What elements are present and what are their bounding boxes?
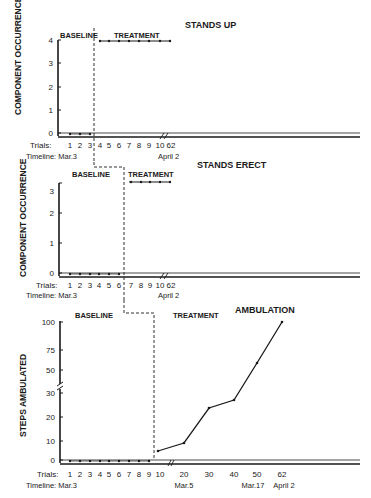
ytick: 2 <box>49 83 54 92</box>
panel-stands-up <box>58 28 360 162</box>
xtick: 2 <box>78 470 83 479</box>
ytick: 20 <box>46 413 55 422</box>
trials-label: Trials: <box>30 141 51 150</box>
xtick: 1 <box>68 281 73 290</box>
xtick: 7 <box>127 470 132 479</box>
xtick: 6 <box>117 141 122 150</box>
timeline-april2: April 2 <box>273 481 294 490</box>
label-treatment: TREATMENT <box>128 170 174 179</box>
timeline-end: April 2 <box>158 291 179 300</box>
xtick: 5 <box>107 470 112 479</box>
xtick: 20 <box>180 470 189 479</box>
data-markers <box>69 40 284 462</box>
ytick: 1 <box>50 239 55 248</box>
ytick: 10 <box>46 437 55 446</box>
xtick: 9 <box>147 141 152 150</box>
ytick: 0 <box>51 456 56 465</box>
label-baseline: BASELINE <box>75 311 113 320</box>
xtick: 4 <box>98 470 103 479</box>
label-treatment: TREATMENT <box>173 311 219 320</box>
xtick: 4 <box>97 281 102 290</box>
xtick: 62 <box>167 141 176 150</box>
xtick: 50 <box>253 470 262 479</box>
ytick: 3 <box>49 59 54 68</box>
ytick: 100 <box>42 318 56 327</box>
label-treatment: TREATMENT <box>114 31 160 40</box>
xtick: 2 <box>78 141 83 150</box>
xtick: 8 <box>137 470 142 479</box>
timeline-label: Timeline: Mar.3 <box>26 291 77 300</box>
ytick: 3 <box>50 187 55 196</box>
xtick: 2 <box>78 281 83 290</box>
label-baseline: BASELINE <box>72 170 110 179</box>
ylabel-steps-ambulated: STEPS AMBULATED <box>18 354 28 437</box>
xtick: 7 <box>127 141 132 150</box>
ytick: 0 <box>50 269 55 278</box>
ytick: 50 <box>46 366 55 375</box>
xtick: 4 <box>98 141 103 150</box>
multiple-baseline-chart: STANDS UP BASELINE TREATMENT COMPONENT O… <box>0 0 371 498</box>
timeline-label: Timeline: Mar.3 <box>26 481 77 490</box>
xtick: 6 <box>117 281 122 290</box>
timeline-label: Timeline: Mar.3 <box>26 152 77 161</box>
xtick: 10 <box>156 281 165 290</box>
xtick: 40 <box>230 470 239 479</box>
title-stands-erect: STANDS ERECT <box>197 160 267 170</box>
trials-label: Trials: <box>36 281 57 290</box>
ytick: 0 <box>49 129 54 138</box>
title-stands-up: STANDS UP <box>185 20 236 30</box>
xtick: 6 <box>117 470 122 479</box>
xtick: 5 <box>107 281 112 290</box>
ytick: 2 <box>50 209 55 218</box>
panel-stands-erect <box>59 182 360 279</box>
panel-ambulation <box>57 321 360 466</box>
xtick: 8 <box>137 141 142 150</box>
xtick: 5 <box>107 141 112 150</box>
label-baseline: BASELINE <box>60 31 98 40</box>
timeline-mar5: Mar.5 <box>175 481 194 490</box>
xtick: 3 <box>88 141 93 150</box>
xtick: 3 <box>88 470 93 479</box>
trials-label: Trials: <box>37 470 58 479</box>
xtick: 1 <box>68 141 73 150</box>
xtick: 10 <box>156 470 165 479</box>
title-ambulation: AMBULATION <box>235 305 295 315</box>
xtick: 62 <box>167 281 176 290</box>
xtick: 30 <box>205 470 214 479</box>
xtick: 8 <box>139 281 144 290</box>
ytick: 30 <box>46 389 55 398</box>
ylabel-component-occurrence: COMPONENT OCCURRENCE <box>13 0 23 115</box>
xtick: 1 <box>68 470 73 479</box>
timeline-end: April 2 <box>158 152 179 161</box>
xtick: 9 <box>147 470 152 479</box>
xtick: 3 <box>88 281 93 290</box>
ylabel-component-occurrence: COMPONENT OCCURRENCE <box>18 158 28 277</box>
ytick: 4 <box>49 36 54 45</box>
timeline-mar17: Mar.17 <box>242 481 265 490</box>
xtick: 10 <box>156 141 165 150</box>
xtick: 62 <box>278 470 287 479</box>
xtick: 9 <box>148 281 153 290</box>
xtick: 7 <box>129 281 134 290</box>
ytick: 75 <box>46 346 55 355</box>
ytick: 1 <box>49 106 54 115</box>
